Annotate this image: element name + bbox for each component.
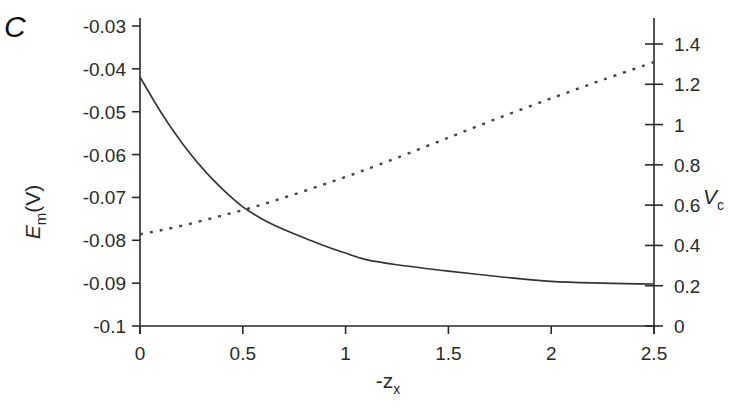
right-tick-label: 0 — [674, 316, 685, 337]
x-tick-label: 2 — [546, 343, 557, 364]
left-tick-label: -0.03 — [83, 16, 126, 37]
left-tick-label: -0.08 — [83, 230, 126, 251]
panel-label: C — [4, 10, 26, 43]
left-y-axis-title: Em(V) — [21, 185, 49, 240]
x-tick-label: 0.5 — [230, 343, 256, 364]
right-tick-label: 0.2 — [674, 276, 700, 297]
x-axis-title: -zx — [376, 369, 401, 397]
right-tick-label: 1.2 — [674, 74, 700, 95]
x-tick-label: 0 — [135, 343, 146, 364]
right-y-axis-title: Vc — [703, 185, 724, 213]
left-tick-label: -0.09 — [83, 273, 126, 294]
x-tick-label: 1.5 — [435, 343, 461, 364]
left-tick-label: -0.1 — [93, 316, 126, 337]
left-tick-label: -0.05 — [83, 102, 126, 123]
left-tick-label: -0.07 — [83, 187, 126, 208]
x-tick-label: 2.5 — [641, 343, 667, 364]
left-y-ticks: -0.03-0.04-0.05-0.06-0.07-0.08-0.09-0.1 — [83, 16, 140, 337]
right-tick-label: 0.4 — [674, 235, 701, 256]
right-tick-label: 1.4 — [674, 34, 701, 55]
right-tick-label: 0.6 — [674, 195, 700, 216]
right-tick-label: 0.8 — [674, 155, 700, 176]
left-tick-label: -0.04 — [83, 59, 127, 80]
axes — [140, 18, 654, 334]
x-tick-label: 1 — [340, 343, 351, 364]
right-tick-label: 1 — [674, 115, 685, 136]
em-line-solid — [140, 77, 654, 284]
left-tick-label: -0.06 — [83, 145, 126, 166]
x-ticks: 00.511.522.5 — [135, 326, 668, 364]
vc-line-dotted — [140, 62, 654, 234]
chart: C -0.03-0.04-0.05-0.06-0.07-0.08-0.09-0.… — [0, 0, 755, 416]
